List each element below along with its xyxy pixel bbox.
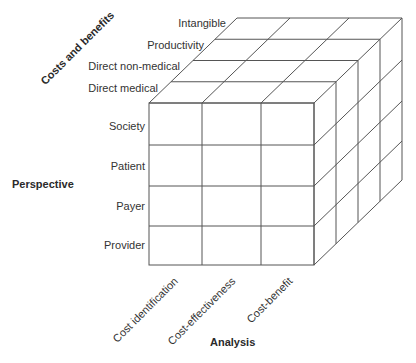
perspective-label-provider: Provider <box>104 239 145 251</box>
cb-label-direct-non-medical: Direct non-medical <box>88 60 180 72</box>
cb-label-intangible: Intangible <box>178 17 226 29</box>
perspective-label-patient: Patient <box>111 160 145 172</box>
perspective-label-payer: Payer <box>116 200 145 212</box>
right-face <box>314 18 402 265</box>
analysis-axis-title: Analysis <box>210 336 255 348</box>
front-face <box>149 103 314 265</box>
top-face <box>149 18 402 103</box>
perspective-label-society: Society <box>109 120 145 132</box>
cb-label-direct-medical: Direct medical <box>88 82 158 94</box>
cb-label-productivity: Productivity <box>147 39 204 51</box>
perspective-axis-title: Perspective <box>12 178 74 190</box>
